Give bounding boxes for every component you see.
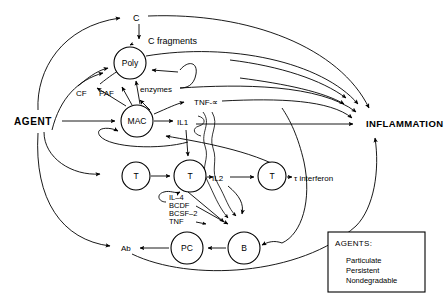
node-t2: T: [174, 160, 206, 192]
inflammation-label: INFLAMMATION: [366, 118, 443, 129]
immune-inflammation-flow-diagram: Poly MAC T T T PC: [0, 0, 445, 303]
mediator-c-fragments-label: C fragments: [148, 36, 198, 46]
agents-legend-item-particulate: Particulate: [346, 256, 381, 265]
agents-legend-title: AGENTS:: [335, 239, 372, 248]
edge-c-to-inflammation: [148, 16, 369, 108]
node-t1: T: [122, 162, 150, 190]
edge-cytokines-to-b-2: [196, 206, 228, 224]
mediator-cf-label: CF: [76, 89, 87, 98]
agents-legend-item-persistent: Persistent: [346, 266, 380, 275]
mediator-ab-label: Ab: [121, 244, 131, 253]
node-b-label: B: [241, 243, 247, 253]
node-t3-label: T: [269, 171, 274, 181]
edge-mac-to-tnf: [154, 102, 184, 114]
mediator-c-label: C: [133, 13, 140, 23]
node-t3: T: [258, 162, 286, 190]
agents-legend-item-nondegradable: Nondegradable: [346, 276, 397, 285]
mediator-paf-label: PAF: [99, 89, 114, 98]
node-mac-label: MAC: [128, 116, 147, 126]
node-poly: Poly: [114, 47, 146, 79]
edge-wavy-il1-down: [203, 112, 228, 218]
edge-il2-to-b: [228, 186, 242, 214]
diagram-canvas: Poly MAC T T T PC: [0, 0, 445, 303]
edge-agent-to-t1: [44, 132, 100, 174]
edge-tnf-to-b: [196, 222, 206, 224]
node-t2-label: T: [187, 171, 192, 181]
agents-legend: AGENTS: Particulate Persistent Nondegrad…: [328, 232, 425, 292]
mediator-tnf-alpha-label: TNF-∝: [194, 98, 218, 107]
node-pc-label: PC: [181, 243, 193, 253]
node-pc: PC: [171, 232, 203, 264]
node-poly-label: Poly: [122, 58, 139, 68]
edge-b-to-inflammation: [262, 242, 282, 245]
agent-label: AGENT: [14, 116, 52, 127]
mediator-enzymes-label: enzymes: [140, 85, 172, 94]
edge-il1-squiggle: [194, 116, 204, 136]
edge-poly-enzymes-loop: [180, 64, 196, 88]
cytokine-tnf-label: TNF: [169, 217, 184, 226]
node-mac: MAC: [121, 105, 153, 137]
edge-enzymes-to-poly: [152, 70, 178, 72]
label-layer: AGENT INFLAMMATION C C fragments CF PAF …: [14, 13, 443, 253]
node-t1-label: T: [133, 171, 138, 181]
edge-layer: [38, 16, 377, 271]
mediator-il1-label: IL1: [177, 118, 189, 127]
edge-wavy-il1-down-2: [212, 112, 236, 216]
edge-fragments-to-poly: [130, 44, 132, 45]
node-layer: Poly MAC T T T PC: [114, 47, 286, 264]
edge-mac-to-paf: [122, 87, 132, 105]
mediator-il2-label: IL2: [212, 174, 224, 183]
node-b: B: [228, 232, 260, 264]
mediator-interferon-label: τ interferon: [294, 174, 333, 183]
edge-il1-to-t2: [186, 130, 188, 156]
